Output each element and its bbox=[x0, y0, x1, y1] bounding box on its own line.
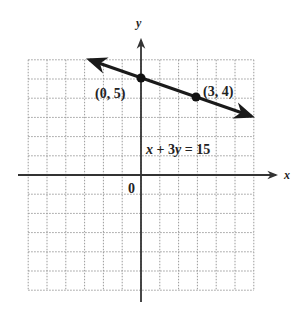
point-0-5 bbox=[137, 74, 146, 83]
coordinate-plane: y x 0 (0, 5) (3, 4) x + 3y = 15 bbox=[0, 0, 302, 309]
point-label-3-4: (3, 4) bbox=[203, 84, 234, 100]
point-label-0-5: (0, 5) bbox=[95, 86, 126, 102]
origin-label: 0 bbox=[128, 181, 135, 196]
y-axis-label: y bbox=[134, 16, 142, 30]
point-3-4 bbox=[192, 93, 201, 102]
equation-label: x + 3y = 15 bbox=[145, 142, 210, 157]
x-axis-label: x bbox=[283, 168, 290, 182]
